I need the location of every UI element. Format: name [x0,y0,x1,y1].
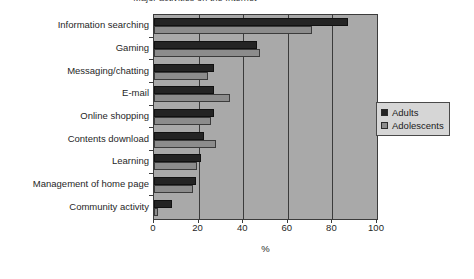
bar-adolescents-1 [154,49,260,57]
x-axis-label-100: 100 [368,222,384,233]
y-axis-label-7: Management of home page [1,178,149,189]
y-axis-tick-1 [149,37,153,38]
y-axis-label-8: Community activity [1,201,149,212]
legend-swatch-adults [381,109,388,116]
bar-adolescents-0 [154,26,312,34]
y-axis-label-1: Gaming [1,42,149,53]
x-axis-title: % [153,243,378,254]
chart-figure: Major activities on the Internet Informa… [0,0,474,279]
x-axis-label-40: 40 [237,222,248,233]
y-axis-label-5: Contents download [1,133,149,144]
y-axis-label-6: Learning [1,155,149,166]
bar-adolescents-8 [154,208,158,216]
y-axis-label-3: E-mail [1,87,149,98]
bar-adolescents-7 [154,185,193,193]
legend-swatch-adolescents [381,122,388,129]
y-axis-label-2: Messaging/chatting [1,65,149,76]
x-axis-label-0: 0 [150,222,155,233]
x-axis-label-80: 80 [326,222,337,233]
bar-adolescents-6 [154,162,197,170]
x-axis-label-60: 60 [282,222,293,233]
y-axis-tick-6 [149,150,153,151]
bar-adults-1 [154,41,257,49]
y-axis-label-0: Information searching [1,19,149,30]
legend-label-adults: Adults [392,107,418,118]
chart-title: Major activities on the Internet [0,0,390,3]
gridline-80 [332,15,333,219]
y-axis-label-4: Online shopping [1,110,149,121]
legend-item-adolescents: Adolescents [381,119,444,132]
y-axis-tick-4 [149,105,153,106]
y-axis-tick-8 [149,195,153,196]
y-axis-tick-7 [149,173,153,174]
bar-adults-3 [154,86,214,94]
bar-adolescents-3 [154,94,230,102]
legend-label-adolescents: Adolescents [392,120,444,131]
y-axis-tick-5 [149,127,153,128]
legend-item-adults: Adults [381,106,444,119]
y-axis-tick-3 [149,82,153,83]
y-axis-tick-2 [149,59,153,60]
bar-adults-5 [154,132,204,140]
bar-adults-7 [154,177,196,185]
bar-adolescents-2 [154,72,208,80]
y-axis-category-labels: Information searchingGamingMessaging/cha… [0,14,149,220]
bar-adults-8 [154,200,172,208]
x-axis-ticks: 020406080100 [153,220,378,234]
bar-adolescents-5 [154,140,216,148]
bar-adults-2 [154,64,214,72]
chart-legend: AdultsAdolescents [376,102,450,136]
gridline-60 [288,15,289,219]
x-axis-label-20: 20 [192,222,203,233]
bar-adolescents-4 [154,117,211,125]
bar-adults-4 [154,109,214,117]
bar-adults-6 [154,154,201,162]
bar-adults-0 [154,18,348,26]
plot-area [153,14,378,220]
